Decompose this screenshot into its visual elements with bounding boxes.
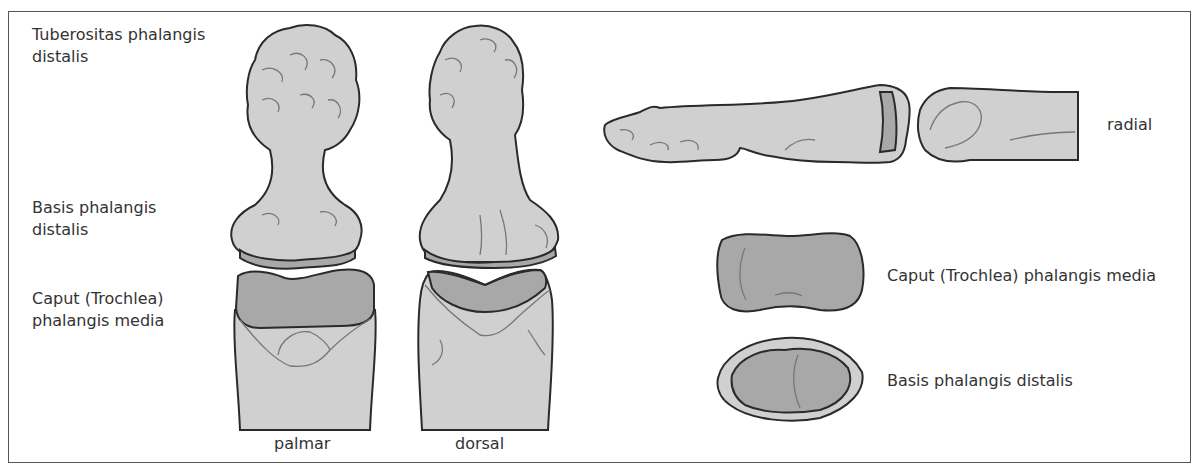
palmar-middle-phalanx xyxy=(234,270,376,430)
label-caput-phalangis-media: Caput (Trochlea) phalangis media xyxy=(887,265,1156,287)
view-label-dorsal: dorsal xyxy=(455,433,504,455)
basis-end-view xyxy=(718,338,863,421)
view-label-radial: radial xyxy=(1107,114,1152,136)
palmar-distal-phalanx xyxy=(231,25,361,269)
phalanx-illustration xyxy=(0,0,1200,471)
caput-end-view xyxy=(717,233,863,311)
dorsal-middle-phalanx xyxy=(418,270,553,430)
dorsal-distal-phalanx xyxy=(420,26,558,268)
view-label-palmar: palmar xyxy=(274,433,330,455)
radial-view-phalanges xyxy=(604,85,1078,163)
label-basis-phalangis-distalis-right: Basis phalangis distalis xyxy=(887,370,1073,392)
